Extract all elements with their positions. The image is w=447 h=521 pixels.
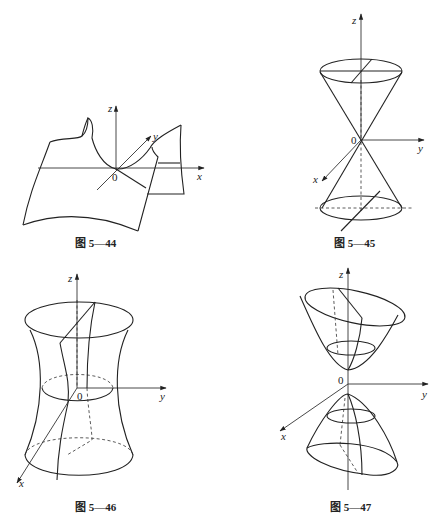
y-label: y xyxy=(152,130,158,142)
y-label: y xyxy=(159,390,165,402)
lower-sheet-level-ellipse xyxy=(327,409,375,423)
waist-back xyxy=(42,375,113,389)
figure-5-47-hyperboloid-two-sheets: z y x 0 图 5—47 xyxy=(280,268,428,513)
right-profile xyxy=(117,330,133,455)
upper-sheet-level-ellipse xyxy=(327,341,375,355)
saddle-left-edge xyxy=(23,142,50,225)
left-profile xyxy=(25,330,40,455)
z-label: z xyxy=(351,14,357,26)
y-label: y xyxy=(417,142,423,154)
x-label: x xyxy=(196,170,202,182)
upper-sheet-profile xyxy=(300,296,398,370)
figure-5-45-cone: z y x 0 图 5—45 xyxy=(312,14,424,249)
origin-label: 0 xyxy=(351,134,357,146)
ruling-front xyxy=(57,343,68,480)
caption-5-47: 图 5—47 xyxy=(330,501,372,513)
z-label: z xyxy=(338,268,344,280)
saddle-bottom-edge xyxy=(23,217,138,231)
figure-5-44-saddle: z y x 0 图 5—44 xyxy=(23,102,204,249)
caption-5-46: 图 5—46 xyxy=(75,501,117,513)
saddle-top-curve xyxy=(50,118,181,169)
caption-5-44: 图 5—44 xyxy=(75,237,117,249)
y-label: y xyxy=(421,388,427,400)
caption-5-45: 图 5—45 xyxy=(334,237,376,249)
z-label: z xyxy=(67,272,73,284)
z-label: z xyxy=(107,102,113,114)
x-label: x xyxy=(18,477,24,489)
origin-label: 0 xyxy=(338,374,344,386)
saddle-front-right-edge xyxy=(138,147,158,231)
x-axis xyxy=(280,384,348,431)
x-label: x xyxy=(280,430,286,442)
x-label: x xyxy=(312,173,318,185)
figures-canvas: z y x 0 图 5—44 z y x 0 图 5—45 xyxy=(0,0,447,521)
origin-label: 0 xyxy=(77,390,83,402)
figure-5-46-hyperboloid-one-sheet: z y x 0 图 5—46 xyxy=(17,272,166,513)
origin-label: 0 xyxy=(112,171,118,183)
bottom-ellipse-front xyxy=(25,455,133,475)
